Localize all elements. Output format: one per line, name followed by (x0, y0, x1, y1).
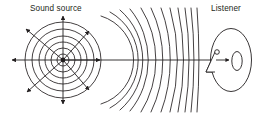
radiating-arrow-up-right (63, 31, 89, 60)
sound-propagation-diagram: Sound source Listener (0, 0, 265, 113)
radiating-arrow-down-right (63, 60, 89, 90)
radiating-arrow-up-left (26, 29, 63, 60)
sound-source-label: Sound source (30, 4, 82, 13)
diagram-canvas: Sound source Listener (0, 0, 265, 113)
listener-label: Listener (211, 4, 241, 13)
listener-ear-icon (232, 52, 242, 71)
listener-eye-icon (215, 50, 220, 55)
listener-head (206, 29, 252, 92)
